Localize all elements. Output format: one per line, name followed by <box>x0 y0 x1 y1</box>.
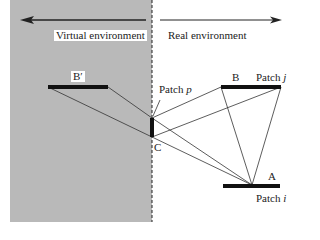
point-b-prime-label: B′ <box>71 71 85 82</box>
virtual-environment-label: Virtual environment <box>54 30 147 41</box>
ray-c-to-a <box>152 137 252 185</box>
patch-j <box>221 85 281 89</box>
point-b-label: B <box>232 72 239 83</box>
patch-i-var: i <box>283 192 286 204</box>
patch-i-prefix: Patch <box>256 192 280 204</box>
patch-p-label: Patch p <box>159 84 192 95</box>
patch-p-prefix: Patch <box>159 83 183 95</box>
patch-j-label: Patch j <box>256 72 286 83</box>
patch-p-var: p <box>186 83 192 95</box>
real-environment-label: Real environment <box>168 30 247 41</box>
ray-b-right-to-a <box>252 87 281 185</box>
patch-b-prime <box>48 85 108 89</box>
ray-p-to-a <box>152 118 252 185</box>
patch-j-prefix: Patch <box>256 71 280 83</box>
patch-p <box>150 118 154 137</box>
patch-j-var: j <box>283 71 286 83</box>
patch-p-leader-line <box>153 100 160 116</box>
point-c-label: C <box>154 142 161 153</box>
patch-i-label: Patch i <box>256 193 286 204</box>
point-a-label: A <box>268 171 276 182</box>
patch-i <box>223 184 280 188</box>
ray-b-left-to-a <box>221 87 252 185</box>
